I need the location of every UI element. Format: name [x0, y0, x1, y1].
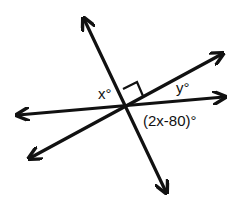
angle-label-expression: (2x-80)°	[143, 113, 197, 128]
intersecting-lines-diagram	[0, 0, 245, 214]
right-angle-marker	[123, 82, 143, 96]
diagram-canvas: x° y° (2x-80)°	[0, 0, 245, 214]
angle-label-x: x°	[98, 86, 112, 101]
angle-label-y: y°	[176, 80, 190, 95]
